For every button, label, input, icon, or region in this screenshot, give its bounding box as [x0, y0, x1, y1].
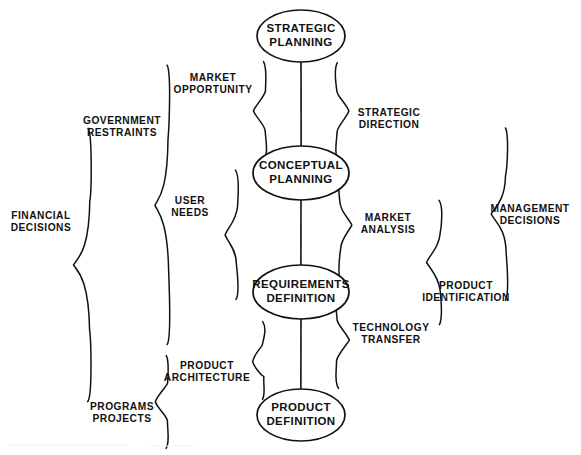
- brace-label-line2: ARCHITECTURE: [164, 372, 250, 383]
- node-label-line1: STRATEGIC: [266, 22, 335, 34]
- node-label-line2: DEFINITION: [266, 415, 335, 427]
- diagram-canvas: MARKETOPPORTUNITYGOVERNMENTRESTRAINTSFIN…: [0, 0, 581, 455]
- brace-label-line2: TRANSFER: [361, 334, 421, 345]
- brace-label-line1: MARKET: [365, 212, 412, 223]
- node-label-line1: REQUIREMENTS: [252, 278, 349, 290]
- brace-label-programs-projects: PROGRAMSPROJECTS: [90, 401, 154, 424]
- brace-label-technology-transfer: TECHNOLOGYTRANSFER: [353, 322, 430, 345]
- brace-programs-projects: [155, 356, 168, 449]
- brace-label-line1: PROGRAMS: [90, 401, 154, 412]
- brace-label-line2: DECISIONS: [500, 215, 561, 226]
- brace-label-market-analysis: MARKETANALYSIS: [361, 212, 416, 235]
- brace-label-line1: USER: [175, 195, 205, 206]
- brace-market-opportunity: [253, 62, 266, 161]
- node-strategic-planning[interactable]: STRATEGICPLANNING: [257, 10, 345, 62]
- brace-label-line1: MANAGEMENT: [490, 203, 569, 214]
- brace-label-government-restraints: GOVERNMENTRESTRAINTS: [83, 115, 161, 138]
- brace-label-line1: PRODUCT: [439, 280, 493, 291]
- brace-label-strategic-direction: STRATEGICDIRECTION: [358, 107, 421, 130]
- brace-label-product-identification: PRODUCTIDENTIFICATION: [422, 280, 510, 303]
- diagram-svg: MARKETOPPORTUNITYGOVERNMENTRESTRAINTSFIN…: [0, 0, 581, 455]
- brace-label-line2: ANALYSIS: [361, 224, 416, 235]
- brace-label-line2: DIRECTION: [359, 119, 420, 130]
- brace-label-line1: STRATEGIC: [358, 107, 421, 118]
- node-label-line2: PLANNING: [269, 173, 332, 185]
- brace-label-line1: FINANCIAL: [11, 210, 70, 221]
- brace-label-line2: DECISIONS: [11, 222, 72, 233]
- brace-strategic-direction: [335, 63, 348, 161]
- node-requirements-definition[interactable]: REQUIREMENTSDEFINITION: [252, 265, 349, 319]
- scan-artifact: [150, 445, 196, 447]
- brace-label-market-opportunity: MARKETOPPORTUNITY: [173, 72, 252, 95]
- brace-label-line2: NEEDS: [171, 207, 209, 218]
- brace-label-product-architecture: PRODUCTARCHITECTURE: [164, 360, 250, 383]
- brace-label-line1: TECHNOLOGY: [353, 322, 430, 333]
- brace-label-line2: OPPORTUNITY: [173, 84, 252, 95]
- brace-product-identification: [427, 200, 442, 324]
- node-label-line2: PLANNING: [269, 36, 332, 48]
- brace-label-user-needs: USERNEEDS: [171, 195, 209, 218]
- node-label-line1: PRODUCT: [271, 401, 331, 413]
- brace-user-needs: [225, 170, 238, 299]
- node-label-line1: CONCEPTUAL: [259, 159, 343, 171]
- brace-label-line1: MARKET: [190, 72, 237, 83]
- node-product-definition[interactable]: PRODUCTDEFINITION: [257, 389, 345, 441]
- brace-label-line1: GOVERNMENT: [83, 115, 161, 126]
- brace-financial-decisions: [73, 128, 91, 401]
- scan-artifact: [8, 444, 128, 446]
- node-conceptual-planning[interactable]: CONCEPTUALPLANNING: [253, 146, 349, 200]
- brace-label-line1: PRODUCT: [180, 360, 234, 371]
- brace-product-architecture: [253, 322, 265, 400]
- brace-government-restraints: [155, 65, 170, 344]
- brace-label-line2: IDENTIFICATION: [422, 292, 510, 303]
- node-label-line2: DEFINITION: [266, 292, 335, 304]
- brace-label-line2: PROJECTS: [93, 413, 152, 424]
- brace-label-line2: RESTRAINTS: [87, 127, 157, 138]
- brace-label-management-decisions: MANAGEMENTDECISIONS: [490, 203, 569, 226]
- brace-label-financial-decisions: FINANCIALDECISIONS: [11, 210, 72, 233]
